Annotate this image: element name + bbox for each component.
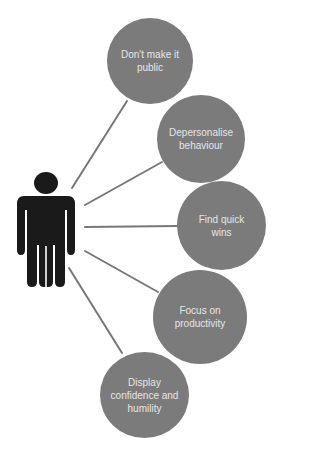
node-label-1: Don't make it public xyxy=(107,48,193,74)
node-label-2: Depersonalise behaviour xyxy=(157,126,245,152)
connector-line-5 xyxy=(69,268,122,353)
node-label-5: Display confidence and humility xyxy=(100,376,189,415)
connector-line-3 xyxy=(85,226,177,227)
connector-line-1 xyxy=(72,101,127,188)
node-bubble-1: Don't make it public xyxy=(107,18,193,104)
connector-line-2 xyxy=(85,162,162,205)
node-bubble-2: Depersonalise behaviour xyxy=(157,95,245,183)
node-bubble-4: Focus on productivity xyxy=(153,270,247,364)
node-bubble-3: Find quick wins xyxy=(177,181,266,270)
node-label-4: Focus on productivity xyxy=(153,304,247,330)
connector-line-4 xyxy=(85,251,158,292)
node-label-3: Find quick wins xyxy=(177,213,266,239)
node-bubble-5: Display confidence and humility xyxy=(100,352,189,438)
